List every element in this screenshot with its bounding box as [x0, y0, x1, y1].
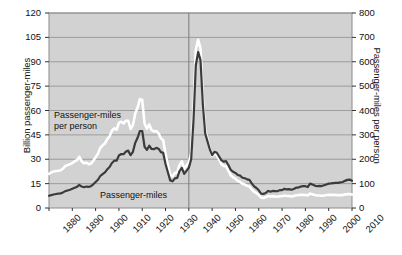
y-tick-left-0: 0: [15, 202, 41, 213]
y-tick-left-60: 60: [15, 105, 41, 116]
y-tick-right-200: 200: [359, 153, 385, 164]
y-tick-right-0: 0: [359, 202, 385, 213]
y-tick-right-600: 600: [359, 56, 385, 67]
y-tick-left-45: 45: [15, 129, 41, 140]
y-tick-left-120: 120: [15, 7, 41, 18]
y-tick-left-30: 30: [15, 153, 41, 164]
annotation-passenger-miles: Passenger-miles: [100, 190, 167, 201]
y-tick-right-700: 700: [359, 31, 385, 42]
annotation-passenger-miles-per-person: Passenger-miles per person: [54, 110, 121, 132]
y-tick-left-15: 15: [15, 178, 41, 189]
y-tick-right-300: 300: [359, 129, 385, 140]
y-tick-left-90: 90: [15, 56, 41, 67]
y-tick-right-800: 800: [359, 7, 385, 18]
y-tick-left-75: 75: [15, 80, 41, 91]
y-tick-right-500: 500: [359, 80, 385, 91]
chart-container: Billion passenger-miles Passenger-miles …: [0, 0, 402, 255]
y-tick-right-400: 400: [359, 105, 385, 116]
y-tick-left-105: 105: [15, 31, 41, 42]
y-tick-right-100: 100: [359, 178, 385, 189]
